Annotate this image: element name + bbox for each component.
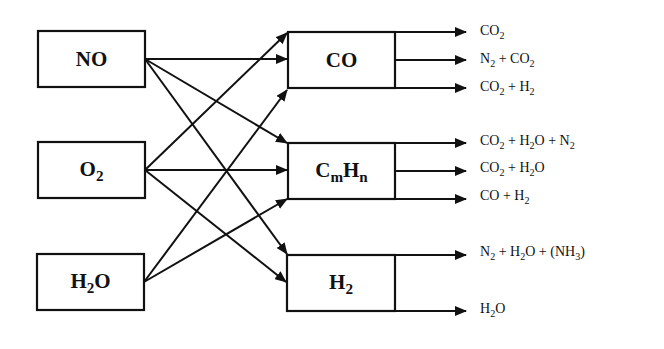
product-H2-1: N2 + H2O + (NH3) — [480, 245, 585, 259]
label-NO: NO — [38, 49, 145, 70]
arrow-H2O-CmHn — [144, 199, 287, 282]
label-CO: CO — [288, 50, 395, 71]
arrow-O2-CO — [145, 33, 287, 170]
label-H2O: H2O — [37, 271, 144, 292]
label-O2: O2 — [38, 159, 145, 180]
arrow-NO-H2 — [145, 59, 287, 254]
product-CO-2: N2 + CO2 — [480, 52, 535, 66]
product-CmHn-2: CO2 + H2O — [480, 161, 545, 175]
product-CmHn-1: CO2 + H2O + N2 — [480, 134, 575, 148]
product-CO-1: CO2 — [480, 24, 505, 38]
product-H2-2: H2O — [480, 302, 505, 316]
input-arrows — [144, 33, 287, 282]
label-H2: H2 — [287, 272, 395, 293]
product-CO-3: CO2 + H2 — [480, 80, 535, 94]
product-CmHn-3: CO + H2 — [480, 189, 530, 203]
label-CmHn: CmHn — [288, 160, 395, 181]
